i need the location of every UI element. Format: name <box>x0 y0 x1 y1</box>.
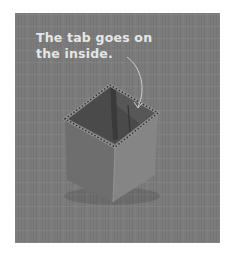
box-illustration <box>0 0 231 258</box>
